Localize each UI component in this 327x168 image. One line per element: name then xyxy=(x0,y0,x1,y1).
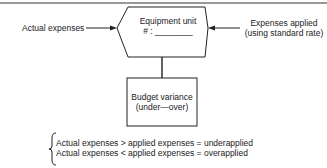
budget-variance-title: Budget variance xyxy=(127,92,197,102)
expenses-applied-label: Expenses applied (using standard rate) xyxy=(244,18,324,38)
left-arrowhead-icon xyxy=(110,26,117,31)
expenses-applied-line1: Expenses applied xyxy=(244,18,324,28)
expenses-applied-line2: (using standard rate) xyxy=(244,28,324,38)
budget-variance-label: Budget variance (under—over) xyxy=(127,92,197,112)
brace-icon xyxy=(49,133,56,165)
rule-overapplied: Actual expenses < applied expenses = ove… xyxy=(56,148,253,158)
rules-list: Actual expenses > applied expenses = und… xyxy=(56,138,253,158)
budget-variance-subtitle: (under—over) xyxy=(127,102,197,112)
right-arrowhead-icon xyxy=(208,26,215,31)
rule-underapplied: Actual expenses > applied expenses = und… xyxy=(56,138,253,148)
actual-expenses-label: Actual expenses xyxy=(22,23,84,33)
equipment-unit-title: Equipment unit xyxy=(128,16,208,26)
equipment-unit-number: # : ________ xyxy=(128,26,208,36)
hexagon-label: Equipment unit # : ________ xyxy=(128,16,208,36)
